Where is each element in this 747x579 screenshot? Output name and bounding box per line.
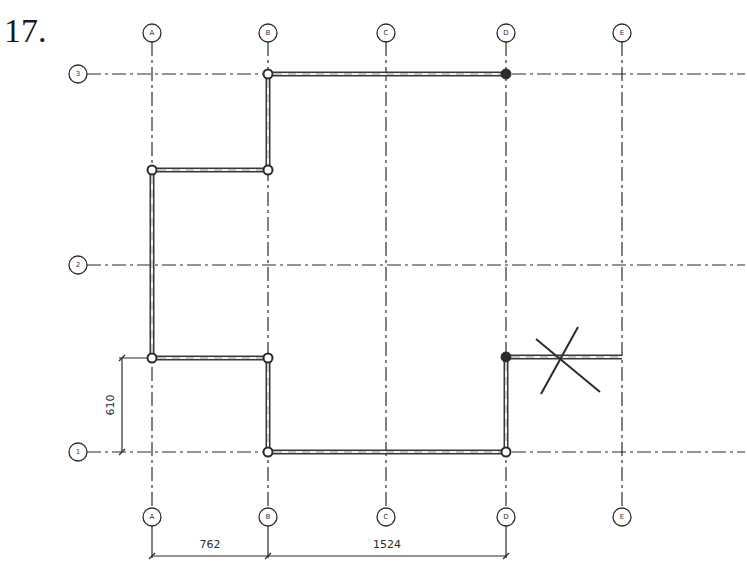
grid-bubble-d-top: D — [497, 24, 515, 42]
grid-bubble-1: 1 — [69, 443, 87, 461]
grid-bubble-a-top: A — [143, 24, 161, 42]
grid-bubble-c-top: C — [377, 24, 395, 42]
wall-node — [501, 69, 511, 79]
grid-bubble-b-top: B — [259, 24, 277, 42]
dimension-lines: 7621524610 — [104, 355, 509, 559]
svg-text:A: A — [150, 513, 155, 521]
wall-node — [148, 354, 157, 363]
wall-node — [264, 70, 273, 79]
svg-text:2: 2 — [76, 261, 80, 269]
svg-text:B: B — [266, 29, 271, 37]
grid-bubble-3: 3 — [69, 65, 87, 83]
svg-text:1: 1 — [76, 448, 80, 456]
walls — [152, 74, 622, 452]
svg-text:C: C — [384, 513, 389, 521]
dimension-label-vertical: 610 — [104, 395, 117, 416]
wall-node — [264, 166, 273, 175]
wall-node — [264, 354, 273, 363]
grid-bubble-2: 2 — [69, 256, 87, 274]
wall-node — [502, 448, 511, 457]
dimension-label-ab: 762 — [200, 538, 221, 551]
grid-lines — [87, 42, 745, 508]
svg-text:D: D — [503, 513, 508, 521]
grid-bubble-a-bottom: A — [143, 508, 161, 526]
grid-bubble-c-bottom: C — [377, 508, 395, 526]
svg-text:E: E — [620, 29, 624, 37]
svg-text:C: C — [384, 29, 389, 37]
wall-nodes — [148, 69, 512, 457]
cross-marker — [536, 327, 600, 394]
wall-node — [148, 166, 157, 175]
grid-bubble-b-bottom: B — [259, 508, 277, 526]
floor-plan-drawing: 7621524610 AABBCCDDEE321 — [0, 0, 747, 579]
svg-text:E: E — [620, 513, 624, 521]
grid-bubble-d-bottom: D — [497, 508, 515, 526]
svg-text:D: D — [503, 29, 508, 37]
wall-node — [501, 352, 511, 362]
cross-marker-line — [541, 327, 578, 394]
svg-text:A: A — [150, 29, 155, 37]
grid-bubble-e-top: E — [613, 24, 631, 42]
svg-text:3: 3 — [76, 70, 80, 78]
grid-bubble-e-bottom: E — [613, 508, 631, 526]
svg-text:B: B — [266, 513, 271, 521]
wall-node — [264, 448, 273, 457]
dimension-label-bd: 1524 — [373, 538, 401, 551]
